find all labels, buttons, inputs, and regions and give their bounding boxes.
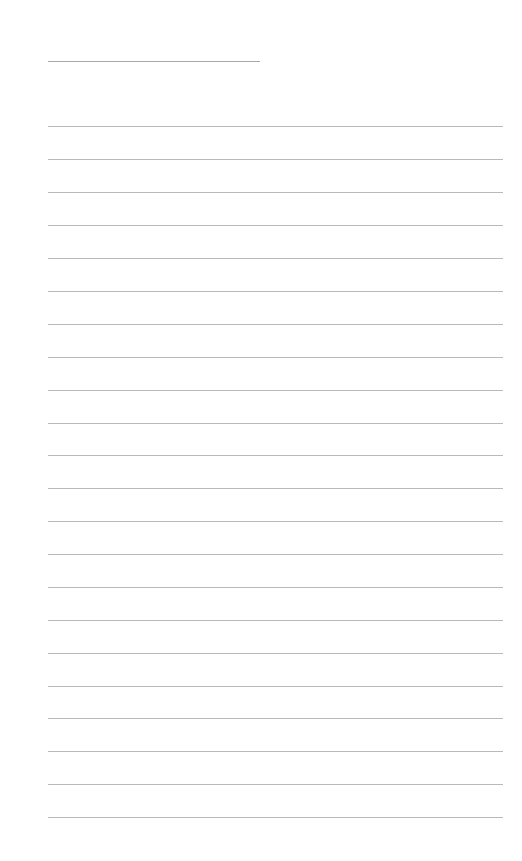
ruled-line [48,488,503,489]
ruled-line [48,258,503,259]
ruled-line [48,192,503,193]
ruled-line [48,390,503,391]
ruled-line [48,817,503,818]
ruled-line [48,784,503,785]
ruled-line [48,587,503,588]
ruled-line [48,455,503,456]
ruled-line [48,653,503,654]
ruled-line [48,159,503,160]
lined-paper-page [0,0,522,861]
ruled-line [48,291,503,292]
ruled-line [48,686,503,687]
ruled-line [48,225,503,226]
ruled-line [48,718,503,719]
ruled-line [48,423,503,424]
ruled-line [48,324,503,325]
ruled-line [48,620,503,621]
ruled-line [48,126,503,127]
ruled-line [48,521,503,522]
name-header-line [48,61,260,62]
ruled-line [48,357,503,358]
ruled-line [48,554,503,555]
ruled-line [48,751,503,752]
